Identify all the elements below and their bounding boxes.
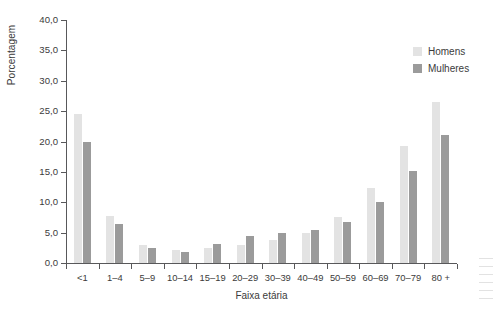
bar-mulheres [278,233,286,263]
x-tick-label: 80 + [424,272,457,283]
bar-mulheres [148,248,156,263]
bar-homens [400,146,408,263]
bar-mulheres [181,252,189,263]
bar-group [172,20,189,263]
x-tick-label: 20–29 [229,272,262,283]
bar-group [204,20,221,263]
bar-mulheres [246,236,254,263]
y-tick-label-wrap: 0,0 [14,257,58,269]
y-tick-label: 40,0 [18,14,58,25]
x-tick [229,264,230,269]
bar-homens [106,216,114,263]
x-tick-label: 70–79 [392,272,425,283]
legend-swatch-icon [413,47,422,56]
bar-group [269,20,286,263]
x-tick-label: 5–9 [131,272,164,283]
x-tick-label: 50–59 [327,272,360,283]
bar-mulheres [83,142,91,263]
bar-homens [269,240,277,263]
x-tick [99,264,100,269]
bar-homens [139,245,147,263]
y-tick-label: 35,0 [18,44,58,55]
y-tick-label-wrap: 25,0 [14,105,58,117]
bar-group [367,20,384,263]
x-tick-label: 1–4 [99,272,132,283]
x-tick [262,264,263,269]
y-tick-label: 20,0 [18,136,58,147]
y-tick-label-wrap: 5,0 [14,227,58,239]
x-tick [294,264,295,269]
x-tick-label: 40–49 [294,272,327,283]
legend-item: Mulheres [413,61,469,75]
y-tick-label-wrap: 40,0 [14,14,58,26]
bar-mulheres [441,135,449,263]
legend: HomensMulheres [413,44,469,78]
bar-chart: Porcentagem 0,05,010,015,020,025,030,035… [0,0,495,320]
bar-homens [432,102,440,263]
bar-group [106,20,123,263]
y-tick-label: 10,0 [18,196,58,207]
bar-mulheres [409,171,417,263]
bar-homens [302,233,310,263]
y-tick-label: 0,0 [18,257,58,268]
bar-group [74,20,91,263]
y-tick-label: 15,0 [18,166,58,177]
x-tick-label: 10–14 [164,272,197,283]
bar-homens [334,217,342,263]
y-tick-label-wrap: 35,0 [14,44,58,56]
x-tick [131,264,132,269]
bar-group [237,20,254,263]
bar-homens [172,250,180,263]
x-tick [327,264,328,269]
legend-swatch-icon [413,64,422,73]
bar-homens [367,188,375,263]
bar-mulheres [311,230,319,263]
bar-group [334,20,351,263]
bar-group [139,20,156,263]
bar-mulheres [343,222,351,263]
bar-mulheres [376,202,384,263]
x-tick-label: 30–39 [262,272,295,283]
bar-mulheres [213,244,221,263]
plot-area [66,20,457,263]
x-tick [164,264,165,269]
x-tick [66,264,67,269]
y-tick-label-wrap: 15,0 [14,166,58,178]
y-tick-label-wrap: 20,0 [14,136,58,148]
x-tick-label: 60–69 [359,272,392,283]
x-tick [424,264,425,269]
bar-homens [204,248,212,263]
x-tick [392,264,393,269]
bar-group [302,20,319,263]
x-tick-label: 15–19 [196,272,229,283]
x-axis-title: Faixa etária [66,290,457,301]
edge-artifact [479,258,493,316]
x-tick [196,264,197,269]
legend-label: Homens [428,46,465,57]
x-tick [457,264,458,269]
bar-homens [74,114,82,263]
y-tick-label-wrap: 30,0 [14,75,58,87]
y-tick-label: 30,0 [18,75,58,86]
legend-item: Homens [413,44,469,58]
legend-label: Mulheres [428,63,469,74]
bar-mulheres [115,224,123,263]
bar-homens [237,245,245,263]
y-tick-label-wrap: 10,0 [14,196,58,208]
y-tick-label: 5,0 [18,227,58,238]
x-tick-label: <1 [66,272,99,283]
x-tick [359,264,360,269]
y-tick-label: 25,0 [18,105,58,116]
